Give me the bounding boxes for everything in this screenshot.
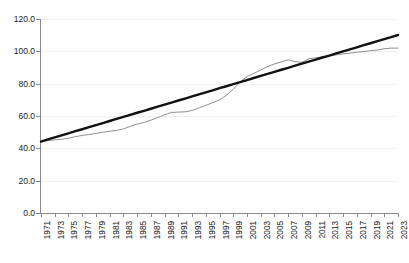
x-tick-mark <box>329 213 330 217</box>
x-tick-mark <box>68 213 69 217</box>
y-tick-mark <box>36 84 41 85</box>
x-tick-mark <box>233 213 234 217</box>
x-tick-label: 2003 <box>264 221 272 239</box>
x-tick-mark <box>357 213 358 217</box>
x-tick-label: 2001 <box>250 221 258 239</box>
gridline <box>41 84 398 85</box>
y-tick-label: 40.0 <box>18 144 35 153</box>
x-tick-label: 1995 <box>209 221 217 239</box>
gridline <box>41 51 398 52</box>
y-tick-mark <box>36 181 41 182</box>
x-tick-mark <box>96 213 97 217</box>
x-tick-mark <box>82 213 83 217</box>
gridline <box>41 148 398 149</box>
y-tick-label: 120.0 <box>14 15 35 24</box>
x-tick-label: 1979 <box>99 221 107 239</box>
x-tick-label: 2007 <box>291 221 299 239</box>
y-tick-label: 0.0 <box>23 209 35 218</box>
y-tick-label: 100.0 <box>14 47 35 56</box>
x-tick-mark <box>371 213 372 217</box>
x-tick-label: 1997 <box>223 221 231 239</box>
x-tick-mark <box>151 213 152 217</box>
x-tick-label: 1983 <box>126 221 134 239</box>
y-tick-mark <box>36 116 41 117</box>
x-tick-label: 2015 <box>346 221 354 239</box>
gridline <box>41 181 398 182</box>
y-tick-label: 60.0 <box>18 112 35 121</box>
x-tick-label: 2009 <box>305 221 313 239</box>
x-tick-mark <box>247 213 248 217</box>
x-tick-label: 2005 <box>277 221 285 239</box>
x-tick-label: 1975 <box>71 221 79 239</box>
x-tick-mark <box>302 213 303 217</box>
x-tick-label: 1991 <box>181 221 189 239</box>
x-tick-mark <box>55 213 56 217</box>
x-tick-label: 1987 <box>154 221 162 239</box>
y-tick-label: 80.0 <box>18 80 35 89</box>
x-tick-mark <box>261 213 262 217</box>
x-tick-mark <box>41 213 42 217</box>
x-tick-mark <box>288 213 289 217</box>
x-tick-label: 2019 <box>374 221 382 239</box>
x-tick-mark <box>220 213 221 217</box>
x-tick-mark <box>192 213 193 217</box>
gridline <box>41 116 398 117</box>
y-tick-mark <box>36 51 41 52</box>
x-tick-mark <box>398 213 399 217</box>
x-tick-mark <box>178 213 179 217</box>
x-tick-label: 1999 <box>236 221 244 239</box>
y-tick-mark <box>36 19 41 20</box>
x-tick-label: 1989 <box>168 221 176 239</box>
y-tick-label: 20.0 <box>18 177 35 186</box>
x-tick-mark <box>384 213 385 217</box>
x-tick-label: 2017 <box>360 221 368 239</box>
x-tick-mark <box>316 213 317 217</box>
gridline <box>41 19 398 20</box>
x-tick-label: 1993 <box>195 221 203 239</box>
x-tick-mark <box>165 213 166 217</box>
x-tick-label: 1981 <box>113 221 121 239</box>
x-tick-mark <box>343 213 344 217</box>
y-tick-mark <box>36 148 41 149</box>
x-tick-label: 1985 <box>140 221 148 239</box>
line-chart: 0.020.040.060.080.0100.0120.0 1971197319… <box>0 0 409 263</box>
x-tick-label: 2011 <box>319 221 327 239</box>
x-tick-label: 2013 <box>332 221 340 239</box>
x-tick-mark <box>137 213 138 217</box>
x-tick-mark <box>123 213 124 217</box>
x-tick-mark <box>274 213 275 217</box>
x-tick-label: 2021 <box>387 221 395 239</box>
x-tick-mark <box>110 213 111 217</box>
x-tick-label: 1973 <box>58 221 66 239</box>
x-tick-label: 1977 <box>85 221 93 239</box>
x-tick-label: 2023 <box>401 221 409 239</box>
x-tick-label: 1971 <box>44 221 52 239</box>
x-tick-mark <box>206 213 207 217</box>
